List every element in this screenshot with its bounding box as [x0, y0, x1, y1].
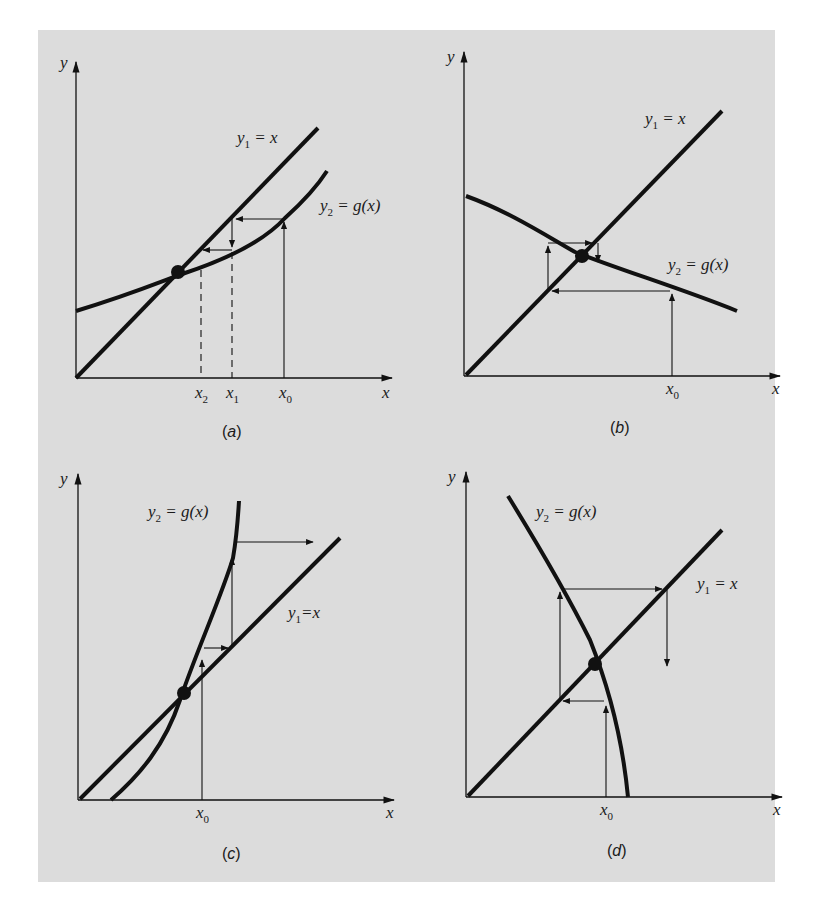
panel-caption: (d) — [607, 842, 627, 859]
identity-line-label: y1=x — [286, 603, 321, 625]
x-axis-label: x — [771, 379, 780, 398]
identity-line — [80, 538, 340, 799]
g-curve-label: y2 = g(x) — [534, 502, 597, 524]
panel-a: y x y1 = x y2 = g(x) x2 x1 x0 (a) — [58, 53, 392, 440]
identity-line — [76, 128, 318, 378]
fixed-point-marker — [575, 249, 589, 263]
g-curve — [76, 171, 327, 311]
tick-x0: x0 — [665, 379, 680, 401]
fixed-point-marker — [588, 657, 602, 671]
panel-d: y x y2 = g(x) y1 = x x0 (d) — [446, 467, 782, 859]
g-curve — [466, 196, 737, 311]
x-axis-label: x — [381, 383, 390, 402]
panel-caption: (a) — [222, 423, 242, 440]
tick-x1: x1 — [225, 383, 239, 405]
panel-c: y x y2 = g(x) y1=x x0 (c) — [58, 469, 394, 862]
panel-b: y x y1 = x y2 = g(x) x0 (b) — [445, 47, 780, 436]
x-axis-label: x — [772, 800, 781, 819]
tick-x0: x0 — [195, 803, 210, 825]
y-axis-label: y — [58, 53, 68, 72]
y-axis-label: y — [445, 47, 455, 66]
tick-x0: x0 — [599, 800, 614, 822]
identity-line — [466, 111, 722, 375]
g-curve-label: y2 = g(x) — [146, 502, 209, 524]
tick-x0: x0 — [278, 383, 293, 405]
fixed-point-marker — [177, 686, 191, 700]
g-curve-label: y2 = g(x) — [318, 196, 381, 218]
tick-x2: x2 — [194, 383, 208, 405]
fixed-point-iteration-figure: y x y1 = x y2 = g(x) x2 x1 x0 (a) y x — [0, 0, 829, 912]
g-curve-label: y2 = g(x) — [666, 255, 729, 277]
panel-caption: (b) — [610, 419, 630, 436]
g-curve — [111, 501, 239, 800]
panel-caption: (c) — [222, 845, 241, 862]
y-axis-label: y — [58, 469, 68, 488]
identity-line-label: y1 = x — [643, 109, 686, 131]
identity-line-label: y1 = x — [235, 128, 278, 150]
identity-line-label: y1 = x — [695, 574, 738, 596]
fixed-point-marker — [171, 265, 185, 279]
y-axis-label: y — [446, 467, 456, 486]
x-axis-label: x — [385, 803, 394, 822]
